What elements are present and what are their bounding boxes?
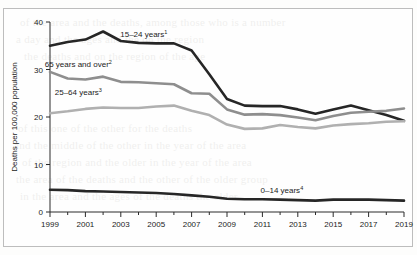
chart-series-group [50,32,404,201]
x-tick-label: 1999 [41,220,59,229]
chart-series-labels: 15–24 years165 years and over225–64 year… [45,29,303,195]
x-tick-label: 2011 [254,220,272,229]
chart-root: of the area and the deaths, among those … [0,0,417,255]
x-tick-label: 2015 [324,220,342,229]
x-tick-label: 2007 [183,220,201,229]
y-axis-title: Deaths per 100,000 population [10,62,19,171]
x-tick-label: 2001 [77,220,95,229]
line-chart: 0102030401999200120032005200720092011201… [0,0,417,255]
series-label-0-14-years: 0–14 years4 [261,185,304,195]
y-tick-label: 0 [39,208,44,217]
x-tick-label: 2009 [218,220,236,229]
series-label-15-24-years: 15–24 years1 [120,29,167,39]
y-tick-label: 20 [34,113,43,122]
y-tick-label: 30 [34,66,43,75]
x-tick-label: 2013 [289,220,307,229]
series-line-65-years-and-over [50,72,404,120]
y-tick-label: 10 [34,161,43,170]
series-label-25-64-years: 25–64 years3 [55,87,102,97]
x-tick-label: 2003 [112,220,130,229]
series-line-0-14-years [50,190,404,201]
series-label-65-years-and-over: 65 years and over2 [45,59,112,69]
x-tick-label: 2017 [360,220,378,229]
x-tick-label: 2019 [395,220,413,229]
y-axis-title-text: Deaths per 100,000 population [10,62,19,171]
x-tick-label: 2005 [147,220,165,229]
y-tick-label: 40 [34,18,43,27]
